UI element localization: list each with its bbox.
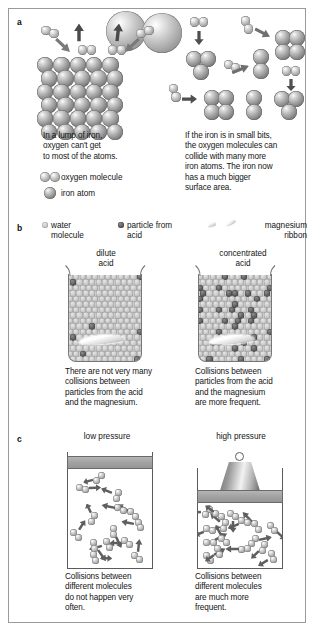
panel-c-right-caption: Collisions between different molecules a… (195, 572, 313, 614)
high-pressure-gas-region (197, 452, 283, 569)
dilute-acid-beaker (69, 275, 141, 361)
oxygen-atom-sphere (218, 513, 225, 520)
low-pressure-container (67, 452, 153, 569)
gas-motion-arrow (255, 557, 269, 569)
concentrated-acid-beaker-wall (198, 274, 272, 362)
low-pressure-gas-region (67, 452, 153, 569)
panel-b-right-caption: Collisions between particles from the ac… (195, 367, 314, 409)
oxygen-atom-sphere (238, 546, 245, 553)
key-label-water-molecule: water molecule (51, 221, 117, 241)
key-magnesium-ribbon-icon (224, 218, 236, 228)
gas-motion-arrow (134, 538, 143, 552)
gas-motion-arrow (197, 508, 202, 517)
concentrated-acid-beaker-rim (195, 265, 202, 276)
figure-frame: a In a lump of iron, oxygen can't get to… (8, 8, 306, 623)
reaction-rate-figure: a In a lump of iron, oxygen can't get to… (0, 0, 314, 631)
dilute-acid-beaker-wall (68, 274, 142, 362)
oxygen-atom-sphere (244, 519, 251, 526)
panel-b-left-caption: There are not very many collisions betwe… (65, 367, 189, 409)
gas-motion-arrow (101, 554, 113, 562)
panel-c-left-heading: low pressure (59, 432, 155, 442)
concentrated-acid-beaker-rim (269, 265, 276, 276)
gas-motion-arrow (258, 533, 273, 544)
key-acid-particle-icon (118, 222, 124, 228)
oxygen-atom-sphere (137, 524, 144, 531)
dilute-acid-beaker-rim (65, 265, 72, 276)
gas-motion-arrow (76, 518, 89, 532)
oxygen-atom-sphere (88, 518, 95, 525)
panel-c-right-heading: high pressure (189, 432, 293, 442)
oxygen-atom-sphere (75, 534, 82, 541)
gas-motion-arrow (99, 485, 113, 497)
gas-motion-arrow (100, 501, 115, 512)
key-label-acid-particle: particle from acid (127, 221, 199, 241)
gas-motion-arrow (109, 539, 121, 547)
oxygen-atom-sphere (126, 541, 133, 548)
oxygen-atom-sphere (136, 556, 143, 563)
oxygen-atom-sphere (270, 556, 277, 563)
oxygen-atom-sphere (255, 526, 262, 533)
high-pressure-container (197, 452, 283, 569)
oxygen-atom-sphere (223, 539, 230, 546)
panel-b-right-heading: concentrated acid (189, 249, 297, 269)
oxygen-atom-sphere (216, 551, 223, 558)
oxygen-atom-sphere (93, 477, 100, 484)
panel-b-key-swatches (9, 9, 309, 249)
oxygen-atom-sphere (209, 527, 216, 534)
dilute-acid-beaker-rim (139, 265, 146, 276)
oxygen-atom-sphere (244, 545, 251, 552)
gas-motion-arrow (225, 545, 239, 553)
panel-c-letter: c (17, 434, 22, 444)
oxygen-atom-sphere (120, 507, 127, 514)
gas-motion-arrow (120, 518, 134, 528)
panel-c-left-caption: Collisions between different molecules d… (65, 572, 187, 614)
concentrated-acid-beaker (199, 275, 271, 361)
key-magnesium-ribbon-icon (206, 220, 216, 228)
key-water-molecule-icon (42, 222, 48, 228)
oxygen-atom-sphere (92, 557, 99, 564)
key-label-magnesium-ribbon: magnesium ribbon (237, 221, 307, 241)
oxygen-atom-sphere (113, 495, 120, 502)
